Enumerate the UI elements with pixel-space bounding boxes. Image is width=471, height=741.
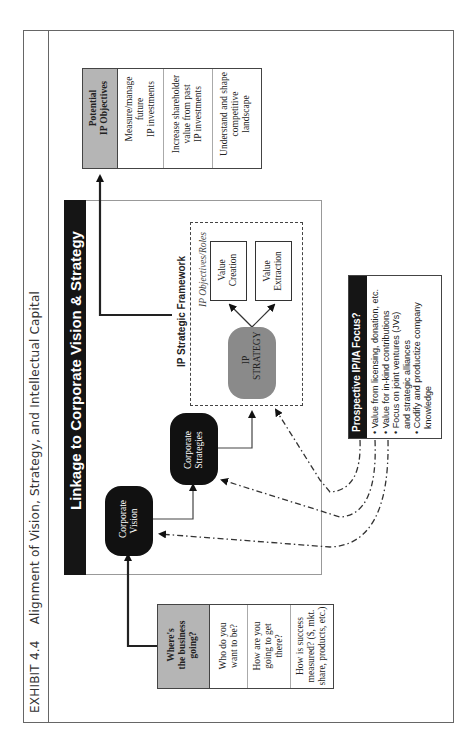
label-line: Corporate (118, 504, 129, 538)
label-line: IP (241, 340, 252, 380)
label-line: IP Objectives (99, 70, 110, 146)
label-line: Increase shareholder (171, 64, 182, 164)
ip-strategy-label: IP STRATEGY (241, 340, 263, 380)
business-header-label: Where's the business going? (166, 610, 199, 680)
objectives-row-1: Measure/manage future IP investments (124, 64, 157, 154)
label-line: How are you (252, 616, 263, 676)
divider (209, 605, 210, 688)
focus-item-text: and strategic alliances (402, 340, 412, 429)
label-line: future (135, 64, 146, 154)
objectives-row-3: Understand and shape competitive landsca… (219, 64, 252, 164)
focus-item: • Focus on joint ventures (JVs) (391, 276, 402, 434)
label-line: Potential (88, 70, 99, 146)
objectives-header-label: Potential IP Objectives (88, 70, 110, 146)
label-line: Where's (166, 610, 177, 680)
focus-item: • Value for in-kind contributions (381, 276, 392, 434)
focus-header-label: Prospective IP/IA Focus? (351, 312, 362, 432)
label-line: Value (262, 247, 273, 295)
label-line: value from past (182, 64, 193, 164)
business-row-1: Who do you want to be? (218, 618, 240, 674)
business-row-3: How is success measured? ($, mkt. share,… (295, 604, 328, 688)
label-line: IP investments (146, 64, 157, 154)
label-line: Vision (129, 504, 140, 538)
focus-item-text: Focus on joint ventures (JVs) (391, 312, 401, 429)
objectives-row-2: Increase shareholder value from past IP … (171, 64, 204, 164)
label-line: Understand and shape (219, 64, 230, 164)
label-line: there? (274, 616, 285, 676)
framework-subtitle: IP Objectives/Roles (198, 232, 208, 307)
corporate-vision-label: Corporate Vision (118, 504, 140, 538)
label-line: Strategies (194, 430, 205, 470)
label-line: the business (177, 610, 188, 680)
focus-item-text: Codify and productize company (412, 302, 422, 428)
value-creation-label: Value Creation (217, 250, 239, 290)
framework-title: IP Strategic Framework (176, 256, 187, 367)
divider (212, 69, 213, 168)
focus-item-text: Value from licensing, donation, etc. (370, 289, 380, 428)
focus-list: • Value from licensing, donation, etc. •… (370, 276, 433, 434)
divider (163, 69, 164, 168)
focus-item-text: Value for in-kind contributions (381, 310, 391, 428)
focus-item: • Codify and productize company (412, 276, 423, 434)
label-line: Corporate (183, 430, 194, 470)
label-line: IP investments (193, 64, 204, 164)
label-line: share, products, etc.) (317, 604, 328, 688)
label-line: Creation (228, 250, 239, 290)
label-line: measured? ($, mkt. (306, 604, 317, 688)
label-line: Who do you (218, 618, 229, 674)
focus-item: and strategic alliances (402, 276, 413, 434)
label-line: going to get (263, 616, 274, 676)
label-line: Value (217, 250, 228, 290)
value-extraction-label: Value Extraction (262, 247, 284, 295)
divider (247, 605, 248, 688)
label-line: Extraction (273, 247, 284, 295)
label-line: Measure/manage (124, 64, 135, 154)
business-row-2: How are you going to get there? (252, 616, 285, 676)
divider (290, 605, 291, 688)
label-line: How is success (295, 604, 306, 688)
label-line: want to be? (229, 618, 240, 674)
label-line: STRATEGY (252, 340, 263, 380)
label-line: going? (188, 610, 199, 680)
focus-item: knowledge (423, 276, 434, 434)
label-line: competitive (230, 64, 241, 164)
focus-item-text: knowledge (423, 386, 433, 429)
divider (117, 69, 118, 168)
label-line: landscape (241, 64, 252, 164)
corporate-strategies-label: Corporate Strategies (183, 430, 205, 470)
focus-item: • Value from licensing, donation, etc. (370, 276, 381, 434)
